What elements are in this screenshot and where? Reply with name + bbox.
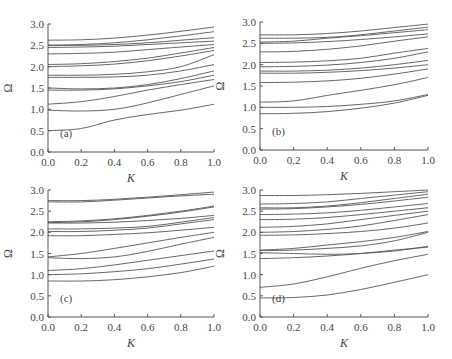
y-tick-label: 2.0 [242, 59, 256, 71]
x-tick-label: 0.2 [74, 321, 88, 333]
x-tick-label: 0.2 [287, 154, 301, 166]
x-tick-label: 0.4 [320, 154, 334, 166]
dispersion-curve [260, 254, 428, 287]
x-axis-title: K [339, 336, 349, 350]
panel-label: (b) [272, 125, 285, 138]
dispersion-curve [48, 32, 214, 46]
y-tick-label: 0.0 [242, 144, 256, 156]
chart-panel-b: 0.00.20.40.60.81.00.00.51.01.52.02.53.0K… [213, 16, 435, 183]
y-tick-label: 3.0 [30, 18, 44, 30]
y-tick-label: 2.5 [242, 205, 256, 217]
y-axis-title: Ω [213, 81, 227, 90]
y-tick-label: 0.0 [30, 146, 44, 158]
x-axis-title: K [126, 171, 136, 185]
y-tick-label: 0.5 [242, 290, 256, 302]
y-tick-label: 2.0 [30, 61, 44, 73]
dispersion-curve [48, 237, 214, 258]
dispersion-curve [260, 37, 428, 52]
chart-panel-d: 0.00.20.40.60.81.00.00.51.01.52.02.53.0K… [213, 184, 435, 350]
dispersion-curve [48, 27, 214, 40]
y-tick-label: 1.5 [30, 82, 44, 94]
y-axis-title: Ω [1, 83, 15, 92]
dispersion-curve [48, 104, 214, 131]
dispersion-curve [48, 45, 214, 54]
x-tick-label: 1.0 [207, 156, 221, 168]
y-tick-label: 1.5 [242, 248, 256, 260]
y-tick-label: 0.0 [242, 311, 256, 323]
chart-figure: 0.00.20.40.60.81.00.00.51.01.52.02.53.0K… [0, 0, 452, 359]
dispersion-curve [48, 86, 214, 111]
dispersion-curve [48, 55, 214, 76]
y-tick-label: 0.5 [30, 290, 44, 302]
dispersion-curve [260, 197, 428, 209]
x-tick-label: 0.8 [174, 321, 188, 333]
dispersion-curve [48, 259, 214, 275]
y-tick-label: 0.5 [242, 123, 256, 135]
y-axis-title: Ω [213, 249, 227, 258]
x-axis-title: K [339, 169, 349, 183]
x-tick-label: 0.8 [388, 321, 402, 333]
dispersion-curve [48, 206, 214, 222]
y-axis-title: Ω [1, 249, 15, 258]
y-tick-label: 2.5 [30, 39, 44, 51]
x-tick-label: 0.4 [320, 321, 334, 333]
y-tick-label: 2.5 [30, 205, 44, 217]
x-tick-label: 0.6 [141, 321, 155, 333]
chart-panel-c: 0.00.20.40.60.81.00.00.51.01.52.02.53.0K… [1, 184, 221, 350]
x-tick-label: 0.4 [108, 321, 122, 333]
dispersion-curve [48, 48, 214, 65]
dispersion-curve [260, 49, 428, 63]
panel-label: (d) [272, 292, 285, 305]
y-tick-label: 0.5 [30, 125, 44, 137]
dispersion-curve [260, 223, 428, 235]
panel-label: (a) [60, 127, 73, 140]
y-tick-label: 1.0 [30, 103, 44, 115]
y-tick-label: 2.0 [30, 226, 44, 238]
y-tick-label: 1.0 [242, 269, 256, 281]
x-tick-label: 0.8 [174, 156, 188, 168]
x-axis-title: K [126, 336, 136, 350]
x-tick-label: 1.0 [207, 321, 221, 333]
x-tick-label: 0.6 [141, 156, 155, 168]
y-tick-label: 1.0 [242, 101, 256, 113]
dispersion-curve [260, 215, 428, 233]
x-tick-label: 0.4 [108, 156, 122, 168]
dispersion-curve [260, 95, 428, 113]
x-tick-label: 1.0 [421, 154, 435, 166]
y-tick-label: 2.0 [242, 226, 256, 238]
x-tick-label: 0.6 [354, 154, 368, 166]
y-tick-label: 2.5 [242, 37, 256, 49]
x-tick-label: 1.0 [421, 321, 435, 333]
y-tick-label: 3.0 [242, 184, 256, 196]
y-tick-label: 1.5 [242, 80, 256, 92]
dispersion-curve [48, 207, 214, 223]
y-tick-label: 3.0 [242, 16, 256, 28]
x-tick-label: 0.2 [74, 156, 88, 168]
y-tick-label: 1.5 [30, 248, 44, 260]
panel-label: (c) [60, 292, 73, 305]
dispersion-curve [48, 251, 214, 270]
y-tick-label: 1.0 [30, 269, 44, 281]
dispersion-curve [260, 208, 428, 220]
x-tick-label: 0.6 [354, 321, 368, 333]
dispersion-curve [260, 24, 428, 35]
x-tick-label: 0.8 [388, 154, 402, 166]
dispersion-curve [260, 275, 428, 298]
x-tick-label: 0.2 [287, 321, 301, 333]
dispersion-curve [260, 78, 428, 103]
y-tick-label: 0.0 [30, 311, 44, 323]
chart-panel-a: 0.00.20.40.60.81.00.00.51.01.52.02.53.0K… [1, 18, 221, 185]
y-tick-label: 3.0 [30, 184, 44, 196]
